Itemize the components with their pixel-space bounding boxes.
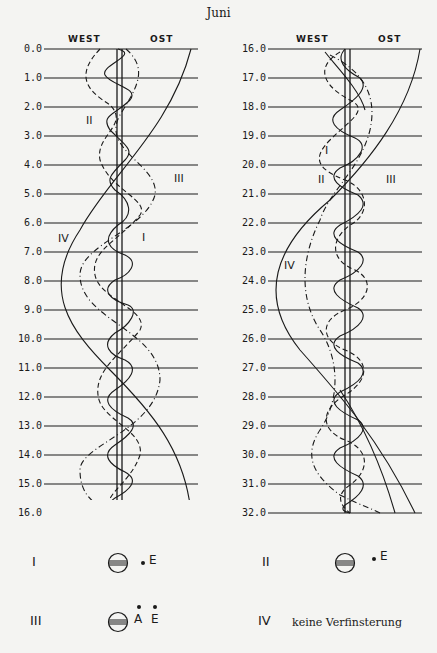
legend-numeral-i: I bbox=[32, 554, 36, 569]
y-label: 0.0 bbox=[24, 43, 42, 54]
eclipse-dot-icon bbox=[153, 605, 157, 609]
y-label: 18.0 bbox=[242, 101, 266, 112]
y-label: 15.0 bbox=[18, 478, 42, 489]
right-curve-label-iv: IV bbox=[284, 259, 295, 272]
y-label: 9.0 bbox=[24, 304, 42, 315]
right-west-label: WEST bbox=[296, 34, 329, 44]
y-label: 19.0 bbox=[242, 130, 266, 141]
y-label: 14.0 bbox=[18, 449, 42, 460]
left-ost-label: OST bbox=[150, 34, 173, 44]
y-label: 24.0 bbox=[242, 275, 266, 286]
y-label: 22.0 bbox=[242, 217, 266, 228]
y-label: 6.0 bbox=[24, 217, 42, 228]
y-label: 25.0 bbox=[242, 304, 266, 315]
eclipse-dot-icon bbox=[137, 605, 141, 609]
y-label: 28.0 bbox=[242, 391, 266, 402]
y-label: 10.0 bbox=[18, 333, 42, 344]
left-west-label: WEST bbox=[68, 34, 101, 44]
y-label: 3.0 bbox=[24, 130, 42, 141]
y-label: 30.0 bbox=[242, 449, 266, 460]
y-label: 2.0 bbox=[24, 101, 42, 112]
y-label: 16.0 bbox=[18, 507, 42, 518]
y-label: 12.0 bbox=[18, 391, 42, 402]
y-label: 26.0 bbox=[242, 333, 266, 344]
legend-numeral-iv: IV bbox=[258, 613, 271, 628]
legend-mark-e: E bbox=[151, 612, 159, 626]
eclipse-dot-icon bbox=[141, 561, 145, 565]
y-label: 31.0 bbox=[242, 478, 266, 489]
y-label: 27.0 bbox=[242, 362, 266, 373]
y-label: 20.0 bbox=[242, 159, 266, 170]
jupiter-disk-icon bbox=[107, 552, 129, 574]
legend-no-eclipse-text: keine Verfinsterung bbox=[292, 616, 402, 629]
legend-numeral-ii: II bbox=[262, 554, 270, 569]
legend-mark-a: A bbox=[134, 612, 142, 626]
y-label: 7.0 bbox=[24, 246, 42, 257]
y-label: 11.0 bbox=[18, 362, 42, 373]
y-label: 29.0 bbox=[242, 420, 266, 431]
y-label: 5.0 bbox=[24, 188, 42, 199]
y-label: 16.0 bbox=[242, 43, 266, 54]
left-curve-label-iv: IV bbox=[58, 232, 69, 245]
y-label: 21.0 bbox=[242, 188, 266, 199]
y-label: 4.0 bbox=[24, 159, 42, 170]
right-curve-label-iii: III bbox=[386, 173, 396, 186]
left-curve-label-ii: II bbox=[86, 114, 93, 127]
y-label: 17.0 bbox=[242, 72, 266, 83]
legend-numeral-iii: III bbox=[30, 613, 42, 628]
y-label: 8.0 bbox=[24, 275, 42, 286]
y-label: 23.0 bbox=[242, 246, 266, 257]
y-label: 13.0 bbox=[18, 420, 42, 431]
legend-mark-e: E bbox=[149, 553, 157, 567]
left-y-axis-labels: 0.0 1.0 2.0 3.0 4.0 5.0 6.0 7.0 8.0 9.0 … bbox=[0, 0, 44, 520]
right-curve-label-ii: II bbox=[318, 173, 325, 186]
eclipse-dot-icon bbox=[372, 557, 376, 561]
y-label: 1.0 bbox=[24, 72, 42, 83]
jupiter-disk-icon bbox=[107, 611, 129, 633]
left-curve-label-iii: III bbox=[174, 172, 184, 185]
jupiter-disk-icon bbox=[334, 552, 356, 574]
legend-mark-e: E bbox=[380, 549, 388, 563]
left-curve-label-i: I bbox=[142, 231, 145, 244]
right-ost-label: OST bbox=[378, 34, 401, 44]
y-label: 32.0 bbox=[242, 507, 266, 518]
right-y-axis-labels: 16.0 17.0 18.0 19.0 20.0 21.0 22.0 23.0 … bbox=[222, 0, 268, 520]
right-curve-label-i: I bbox=[325, 144, 328, 157]
